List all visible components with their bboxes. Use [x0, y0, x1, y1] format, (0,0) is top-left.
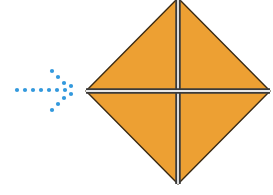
arrow-head-lower-dot: [56, 102, 60, 106]
arrow-shaft-dot: [55, 88, 59, 92]
arrow-head-upper-dot: [56, 75, 60, 79]
arrow-tip-dot: [69, 84, 73, 88]
arrow-head-upper-dot: [50, 69, 54, 73]
arrow-shaft-dot: [31, 88, 35, 92]
arrow-tip-dot: [69, 92, 73, 96]
arrow-shaft-dot: [39, 88, 43, 92]
arrow-head-lower-dot: [62, 96, 66, 100]
arrow-shaft-dot: [23, 88, 27, 92]
arrow-head-upper-dot: [62, 81, 66, 85]
arrow-shaft-dot: [47, 88, 51, 92]
folding-diagram-figure: Folding step diagram: [0, 0, 273, 195]
arrow-shaft-dot: [15, 88, 19, 92]
arrow-head-lower-dot: [50, 108, 54, 112]
arrow-shaft-dot: [63, 88, 67, 92]
